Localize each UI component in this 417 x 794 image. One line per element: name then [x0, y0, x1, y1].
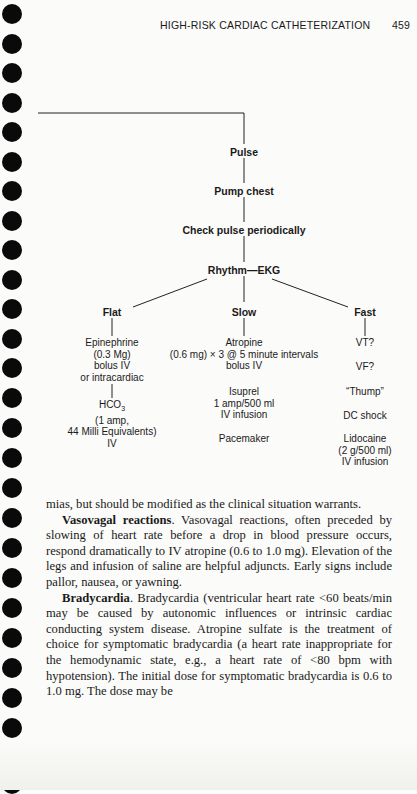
binder-hole [2, 688, 22, 708]
text-line: (2 g/500 ml) [338, 445, 391, 457]
text-line: Isuprel [214, 386, 275, 398]
text-line: (0.3 Mg) [80, 349, 143, 361]
binder-hole [2, 568, 22, 588]
text-line: (0.6 mg) × 3 @ 5 minute intervals [170, 349, 318, 361]
text-line: “Thump” [346, 386, 384, 398]
rhythm-dash: — [247, 264, 258, 276]
text-line: IV [68, 438, 157, 450]
node-pulse: Pulse [228, 146, 260, 158]
slow-atropine-block: Atropine (0.6 mg) × 3 @ 5 minute interva… [170, 337, 318, 372]
text-line: IV infusion [338, 456, 391, 468]
binder-hole [2, 508, 22, 528]
node-pump-chest: Pump chest [212, 185, 276, 197]
page-bottom-shadow [0, 740, 417, 790]
node-rhythm-ekg: Rhythm—EKG [206, 264, 282, 276]
fast-thump: “Thump” [346, 386, 384, 398]
flat-hco3-block: HCO3 (1 amp, 44 Milli Equivalents) IV [68, 399, 157, 449]
chem-subscript: 3 [121, 405, 125, 412]
text-line: or intracardiac [80, 372, 143, 384]
text-line: bolus IV [170, 360, 318, 372]
paragraph-continuation: mias, but should be modified as the clin… [46, 497, 392, 513]
text-line: (1 amp, [68, 415, 157, 427]
binder-hole [2, 598, 22, 618]
heading-vasovagal: Vasovagal reactions [62, 513, 172, 527]
node-check-pulse: Check pulse periodically [180, 224, 307, 236]
slow-isuprel-block: Isuprel 1 amp/500 ml IV infusion [214, 386, 275, 421]
text-line: VT? [356, 337, 374, 349]
chem-label: HCO [99, 399, 121, 410]
binder-hole [2, 628, 22, 648]
text-line: DC shock [343, 410, 386, 422]
rhythm-label: Rhythm [208, 264, 247, 276]
text-line: VF? [356, 361, 374, 373]
binder-hole [2, 658, 22, 678]
heading-bradycardia: Bradycardia [62, 591, 130, 605]
slow-pacemaker-block: Pacemaker [219, 433, 270, 445]
fast-dc-shock: DC shock [343, 410, 386, 422]
paragraph-vasovagal: Vasovagal reactions. Vasovagal reactions… [46, 513, 392, 591]
fast-vf: VF? [356, 361, 374, 373]
text-line: Atropine [170, 337, 318, 349]
text-line: Epinephrine [80, 337, 143, 349]
text-line: 44 Milli Equivalents) [68, 426, 157, 438]
body-text: mias, but should be modified as the clin… [46, 497, 392, 700]
text-line: Pacemaker [219, 433, 270, 445]
branch-slow-label: Slow [230, 306, 259, 318]
text-line: IV infusion [214, 409, 275, 421]
text-line: 1 amp/500 ml [214, 398, 275, 410]
binder-hole [2, 718, 22, 738]
hco3-line: HCO3 [68, 399, 157, 415]
ekg-label: EKG [257, 264, 280, 276]
text-line: Lidocaine [338, 433, 391, 445]
flat-epinephrine-block: Epinephrine (0.3 Mg) bolus IV or intraca… [80, 337, 143, 383]
cardiac-arrest-flowchart: Pulse Pump chest Check pulse periodicall… [0, 0, 417, 500]
binder-hole [2, 538, 22, 558]
branch-flat-label: Flat [101, 306, 124, 318]
branch-fast-label: Fast [352, 306, 378, 318]
flowchart-connectors [0, 0, 417, 500]
paragraph-text: . Bradycardia (ventricular heart rate <6… [46, 591, 392, 699]
fast-vt: VT? [356, 337, 374, 349]
fast-lidocaine-block: Lidocaine (2 g/500 ml) IV infusion [338, 433, 391, 468]
text-line: bolus IV [80, 360, 143, 372]
paragraph-bradycardia: Bradycardia. Bradycardia (ventricular he… [46, 591, 392, 700]
